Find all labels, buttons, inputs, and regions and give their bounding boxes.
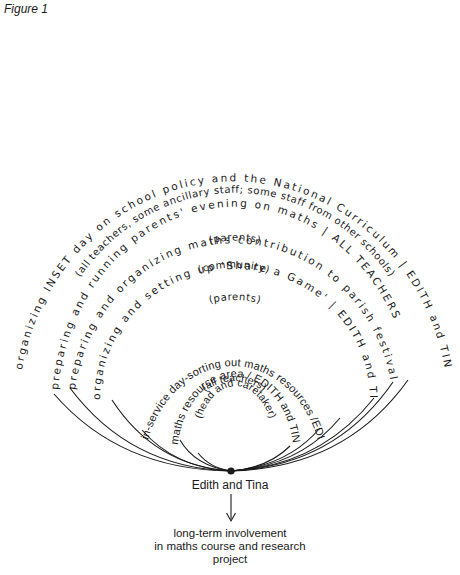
outcome-line-1: long-term involvement [130,527,330,540]
outcome-text: long-term involvement in maths course an… [130,527,330,566]
outcome-line-3: project [130,553,330,566]
down-arrow-icon [227,494,236,521]
focus-dot [227,467,234,474]
arc-3-audience: (parents) [208,291,263,305]
outcome-line-2: in maths course and research [130,540,330,553]
focus-label: Edith and Tina [0,478,460,492]
converging-lines [54,380,408,471]
